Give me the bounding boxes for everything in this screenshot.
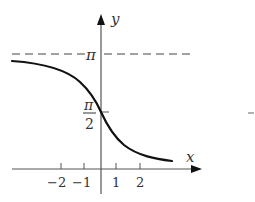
arccot-graph: y x π π 2 −2 −1 1 2 bbox=[0, 0, 255, 202]
x-tick-label-2: 2 bbox=[136, 175, 144, 190]
y-axis-label: y bbox=[110, 10, 120, 28]
x-tick-label-1: 1 bbox=[112, 175, 120, 190]
x-tick-label-m2: −2 bbox=[47, 175, 66, 190]
pi-label: π bbox=[85, 46, 97, 64]
pi-half-denominator: 2 bbox=[85, 116, 94, 132]
x-axis-label: x bbox=[186, 148, 195, 166]
x-tick-label-m1: −1 bbox=[72, 175, 91, 190]
y-axis-arrow-icon bbox=[97, 14, 105, 25]
pi-half-numerator: π bbox=[83, 97, 94, 113]
x-axis-arrow-icon bbox=[191, 165, 202, 173]
